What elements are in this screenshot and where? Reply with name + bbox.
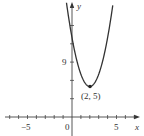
parabola-curve <box>66 3 112 87</box>
y-axis-label: y <box>76 1 81 11</box>
parabola-chart: y x −5 0 5 9 (2, 5) <box>0 0 144 136</box>
x-axis <box>5 115 140 119</box>
x-tick-label-0: 0 <box>65 122 70 132</box>
vertex-label: (2, 5) <box>81 91 101 101</box>
x-tick-label-neg5: −5 <box>21 122 31 132</box>
x-axis-arrow-icon <box>134 115 140 119</box>
y-tick-label-9: 9 <box>62 57 67 67</box>
x-axis-label: x <box>134 122 139 132</box>
vertex-point <box>88 85 92 89</box>
y-axis <box>70 2 74 136</box>
x-tick-label-5: 5 <box>114 122 119 132</box>
